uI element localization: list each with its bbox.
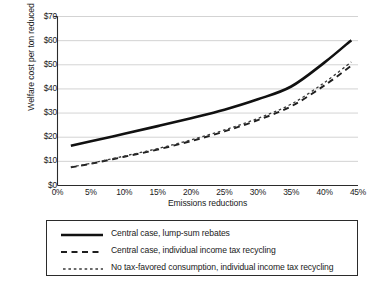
legend-item-2: No tax-favored consumption, individual i…	[47, 258, 357, 276]
axis-lines	[54, 17, 359, 186]
x-tick-label: 45%	[338, 187, 371, 197]
legend-label-2: No tax-favored consumption, individual i…	[111, 262, 333, 272]
y-tick-label: $30	[17, 107, 57, 117]
y-tick-label: $50	[17, 59, 57, 69]
chart-figure: Welfare cost per ton reduced $0$10$20$30…	[0, 0, 371, 291]
legend-label-1: Central case, individual income tax recy…	[111, 245, 276, 255]
y-tick-label: $10	[17, 155, 57, 165]
series-lines	[71, 40, 351, 167]
y-tick-label: $70	[17, 11, 57, 21]
chart-legend: Central case, lump-sum rebates Central c…	[46, 220, 358, 276]
legend-label-0: Central case, lump-sum rebates	[111, 228, 230, 238]
y-tick-label: $20	[17, 131, 57, 141]
y-tick-label: $40	[17, 83, 57, 93]
legend-swatch-dashed	[60, 244, 104, 256]
legend-item-0: Central case, lump-sum rebates	[47, 224, 357, 242]
y-tick-label: $60	[17, 35, 57, 45]
legend-item-1: Central case, individual income tax recy…	[47, 241, 357, 259]
legend-swatch-solid	[60, 227, 104, 239]
legend-swatch-dotted	[60, 261, 104, 273]
x-axis-title: Emissions reductions	[57, 198, 358, 208]
